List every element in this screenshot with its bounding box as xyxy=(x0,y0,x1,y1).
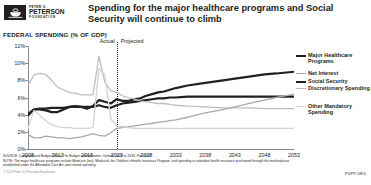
series-line-major-healthcare-programs xyxy=(28,72,294,116)
note-line: NOTE: The major healthcare programs incl… xyxy=(3,159,303,168)
y-tick-10%: 10% xyxy=(1,60,25,66)
series-line-discretionary-spending xyxy=(28,56,294,108)
legend-swatch xyxy=(296,88,306,89)
chart-page: PETER G. PETERSON FOUNDATION Spending fo… xyxy=(0,0,371,185)
actual-label: Actual xyxy=(87,38,115,44)
header: PETER G. PETERSON FOUNDATION Spending fo… xyxy=(0,0,371,30)
chart-axis-title: FEDERAL SPENDING (% OF GDP) xyxy=(3,31,107,38)
peterson-bowl-logo-icon xyxy=(4,5,26,20)
legend-item-major-healthcare-programs: Major Healthcare Programs xyxy=(296,52,371,65)
y-tick-2%: 2% xyxy=(1,129,25,135)
page-title: Spending for the major healthcare progra… xyxy=(88,3,366,26)
series-line-net-interest xyxy=(28,94,294,139)
logo-line-3: FOUNDATION xyxy=(29,16,64,19)
logo-wordmark: PETER G. PETERSON FOUNDATION xyxy=(29,6,64,19)
legend-label: Other Mandatory Spending xyxy=(296,103,371,116)
legend-item-social-security: Social Security xyxy=(296,78,371,84)
plot-area xyxy=(28,46,294,149)
projected-label: Projected xyxy=(121,38,144,44)
y-tick-4%: 4% xyxy=(1,112,25,118)
pgpf-logo: PETER G. PETERSON FOUNDATION xyxy=(4,5,64,20)
footer: SOURCE: Congressional Budget Office, The… xyxy=(3,154,303,174)
legend-label: Social Security xyxy=(296,78,371,84)
y-tick-mark xyxy=(25,149,28,150)
legend-item-net-interest: Net Interest xyxy=(296,70,371,76)
legend-item-discretionary-spending: Discretionary Spending xyxy=(296,85,371,91)
legend-label: Net Interest xyxy=(296,70,371,76)
copyright-line: © 2023 Peter G. Peterson Foundation xyxy=(3,170,303,174)
y-tick-12%: 12% xyxy=(1,43,25,49)
legend-label: Major Healthcare Programs xyxy=(296,52,371,65)
legend-item-other-mandatory-spending: Other Mandatory Spending xyxy=(296,103,371,116)
series-line-social-security xyxy=(28,97,294,114)
legend-swatch xyxy=(296,73,306,74)
y-tick-6%: 6% xyxy=(1,95,25,101)
legend-swatch xyxy=(296,106,306,107)
series-lines xyxy=(28,46,294,149)
legend-swatch xyxy=(296,55,306,57)
x-axis-line xyxy=(28,149,294,150)
pgpf-org-tag: PGPF.ORG xyxy=(345,172,366,176)
y-tick-8%: 8% xyxy=(1,77,25,83)
legend-swatch xyxy=(296,81,306,83)
legend-label: Discretionary Spending xyxy=(296,85,371,91)
